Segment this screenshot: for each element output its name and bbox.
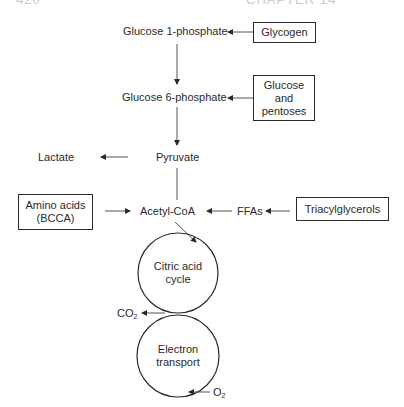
label-citric-acid-cycle: Citric acid cycle <box>138 260 218 286</box>
node-glucose-6-phosphate: Glucose 6-phosphate <box>122 91 227 104</box>
metabolic-pathway-diagram: 420 CHAPTER 14 <box>0 0 404 407</box>
cycle-line1: Citric acid <box>138 260 218 273</box>
electron-line2: transport <box>138 356 218 369</box>
node-glucose-1-phosphate: Glucose 1-phosphate <box>123 25 228 38</box>
box-amino-line1: Amino acids <box>26 199 86 212</box>
co2-text: CO <box>117 307 134 319</box>
box-tag-label: Triacylglycerols <box>305 203 380 216</box>
node-acetyl-coa: Acetyl-CoA <box>140 205 195 218</box>
node-co2: CO2 <box>117 307 137 323</box>
cycle-line2: cycle <box>138 273 218 286</box>
box-glycogen: Glycogen <box>253 22 316 43</box>
label-electron-transport: Electron transport <box>138 343 218 369</box>
electron-line1: Electron <box>138 343 218 356</box>
o2-subscript: 2 <box>222 392 226 399</box>
node-pyruvate: Pyruvate <box>156 151 199 164</box>
box-amino-acids: Amino acids (BCCA) <box>18 194 93 230</box>
box-glucose-line3: pentoses <box>262 105 307 118</box>
box-glucose-line2: and <box>275 92 293 105</box>
box-glycogen-label: Glycogen <box>261 26 307 39</box>
node-o2: O2 <box>213 386 225 402</box>
box-glucose-and-pentoses: Glucose and pentoses <box>253 75 315 121</box>
box-amino-line2: (BCCA) <box>37 212 75 225</box>
node-lactate: Lactate <box>38 151 74 164</box>
box-triacylglycerols: Triacylglycerols <box>296 197 389 221</box>
node-ffas: FFAs <box>237 205 263 218</box>
co2-subscript: 2 <box>134 313 138 320</box>
arrow-acetylcoa-to-cycle <box>175 222 196 242</box>
o2-text: O <box>213 386 222 398</box>
box-glucose-line1: Glucose <box>264 79 304 92</box>
